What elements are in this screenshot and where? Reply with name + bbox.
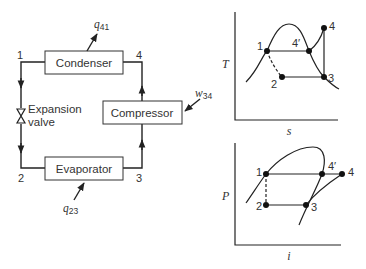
heat-in-arrow-icon (74, 183, 84, 200)
ts-point-1 (264, 48, 270, 54)
ts-superheat-curve (309, 28, 324, 51)
heat-out-arrow-icon (87, 34, 97, 51)
ts-label-2: 2 (271, 78, 277, 90)
pi-ylabel: P (221, 189, 230, 203)
pi-axes (235, 143, 341, 245)
pi-diagram: P i 1 4′ 4 2 3 (221, 143, 354, 263)
q41-label: q41 (94, 18, 109, 32)
pipe-compressor-to-condenser (123, 62, 142, 101)
pi-label-4prime: 4′ (328, 160, 336, 172)
pi-label-1: 1 (256, 166, 262, 178)
work-in-arrow-icon (185, 99, 200, 111)
state-label-3: 3 (136, 172, 142, 184)
ts-xlabel: s (287, 124, 292, 138)
ts-label-3: 3 (328, 72, 334, 84)
ts-point-4prime (306, 48, 312, 54)
compressor-label: Compressor (111, 107, 174, 119)
state-label-2: 2 (18, 172, 24, 184)
state-label-1: 1 (17, 49, 23, 61)
expansion-valve-label-line1: Expansion (28, 103, 82, 115)
evaporator-label: Evaporator (56, 163, 112, 175)
q23-label: q23 (63, 202, 78, 216)
ts-point-3 (321, 74, 327, 80)
pi-xlabel: i (287, 249, 290, 263)
pi-label-2: 2 (256, 200, 262, 212)
ts-label-4prime: 4′ (292, 37, 300, 49)
ts-label-1: 1 (257, 40, 263, 52)
pi-saturation-dome (246, 147, 324, 225)
ts-ylabel: T (222, 57, 230, 71)
pi-label-4: 4 (348, 166, 354, 178)
pi-label-3: 3 (311, 201, 317, 213)
pi-point-4prime (319, 171, 325, 177)
condenser-label: Condenser (56, 57, 112, 69)
pi-point-2 (263, 202, 269, 208)
pi-point-1 (263, 171, 269, 177)
cycle-schematic: Expansion valve Condenser Compressor Eva… (17, 18, 212, 216)
ts-point-4 (321, 25, 327, 31)
pipe-evaporator-to-compressor (123, 124, 142, 168)
ts-diagram: T s 1 4′ 4 3 2 (222, 12, 339, 138)
expansion-valve-label-line2: valve (28, 116, 55, 128)
refrigeration-cycle-figure: Expansion valve Condenser Compressor Eva… (0, 0, 366, 269)
w34-label: w34 (195, 87, 212, 101)
ts-point-2 (279, 74, 285, 80)
pi-point-4 (339, 171, 345, 177)
state-label-4: 4 (136, 49, 142, 61)
ts-throttle-dashed (267, 51, 282, 77)
pi-point-3 (303, 202, 309, 208)
expansion-valve-icon (17, 108, 25, 124)
ts-label-4: 4 (329, 20, 335, 32)
